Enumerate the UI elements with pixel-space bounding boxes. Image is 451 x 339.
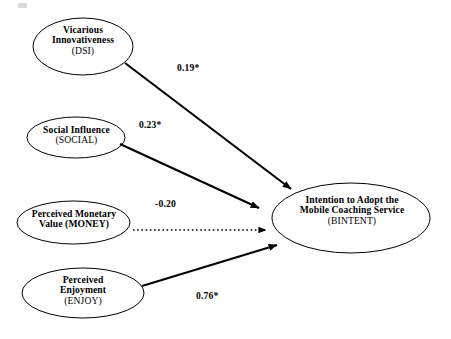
path-coefficient-social: 0.23* xyxy=(139,119,162,130)
path-arrow-enjoy-bintent xyxy=(142,245,277,286)
path-coefficient-money: -0.20 xyxy=(155,198,176,209)
node-ellipse-bintent xyxy=(272,183,430,253)
node-ellipse-money xyxy=(17,201,130,244)
node-ellipse-social xyxy=(27,117,125,158)
path-arrow-social-bintent xyxy=(120,144,259,208)
path-model-diagram: Vicarious Innovativeness (DSI) Social In… xyxy=(0,0,451,339)
diagram-canvas xyxy=(0,0,451,339)
node-ellipse-dsi xyxy=(33,18,133,75)
path-coefficient-enjoy: 0.76* xyxy=(196,290,219,301)
path-coefficient-dsi: 0.19* xyxy=(177,62,200,73)
node-ellipse-enjoy xyxy=(22,268,144,318)
